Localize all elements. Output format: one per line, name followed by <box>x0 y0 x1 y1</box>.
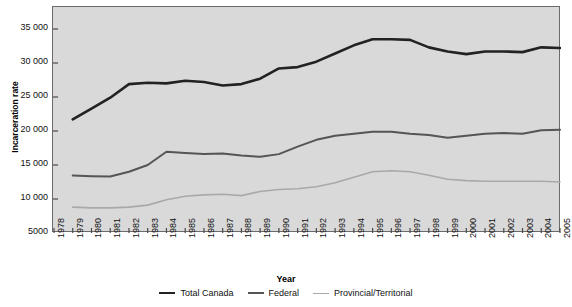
x-tick-label: 1993 <box>338 218 347 238</box>
x-tick-label: 1986 <box>207 218 216 238</box>
x-tick-label: 1980 <box>94 218 103 238</box>
x-tick-label: 2001 <box>488 218 497 238</box>
series-line <box>73 39 560 119</box>
x-tick-label: 2005 <box>563 218 572 238</box>
legend-item: Total Canada <box>159 288 233 298</box>
legend-item: Federal <box>248 288 300 298</box>
chart-legend: Total CanadaFederalProvincial/Territoria… <box>0 288 572 298</box>
x-tick-label: 1991 <box>301 218 310 238</box>
y-tick-label: 25 000 <box>4 91 48 100</box>
x-tick-label: 2000 <box>469 218 478 238</box>
legend-label: Federal <box>269 288 300 298</box>
x-tick-label: 1997 <box>413 218 422 238</box>
x-tick-label: 1983 <box>151 218 160 238</box>
x-tick-label: 1999 <box>451 218 460 238</box>
chart-lines <box>53 7 561 233</box>
x-tick-label: 1990 <box>282 218 291 238</box>
x-tick-label: 1992 <box>319 218 328 238</box>
legend-item: Provincial/Territorial <box>313 288 413 298</box>
y-tick-label: 30 000 <box>4 57 48 66</box>
x-tick-label: 1995 <box>376 218 385 238</box>
x-tick-label: 2003 <box>526 218 535 238</box>
x-tick-label: 1994 <box>357 218 366 238</box>
legend-swatch <box>159 292 175 294</box>
legend-label: Total Canada <box>180 288 233 298</box>
x-tick-label: 1978 <box>57 218 66 238</box>
plot-area <box>52 6 560 232</box>
x-tick-label: 1987 <box>226 218 235 238</box>
x-tick-label: 1989 <box>263 218 272 238</box>
x-tick-label: 1979 <box>76 218 85 238</box>
x-tick-label: 2002 <box>507 218 516 238</box>
legend-label: Provincial/Territorial <box>334 288 413 298</box>
x-tick-label: 1998 <box>432 218 441 238</box>
x-tick-label: 1996 <box>394 218 403 238</box>
x-tick-label: 1985 <box>188 218 197 238</box>
y-tick-label: 15 000 <box>4 159 48 168</box>
x-tick-label: 1981 <box>113 218 122 238</box>
y-tick-label: 10 000 <box>4 193 48 202</box>
x-tick-label: 1984 <box>169 218 178 238</box>
legend-swatch <box>248 292 264 294</box>
incarceration-rate-line-chart: Incarceration rate 500010 00015 00020 00… <box>0 0 572 307</box>
legend-swatch <box>313 293 329 294</box>
y-tick-label: 20 000 <box>4 125 48 134</box>
series-line <box>73 130 560 177</box>
series-line <box>73 171 560 208</box>
x-axis-title: Year <box>0 274 572 284</box>
y-axis-tick-labels: 500010 00015 00020 00025 00030 00035 000 <box>0 0 48 240</box>
x-tick-label: 2004 <box>544 218 553 238</box>
y-tick-label: 5000 <box>4 227 48 236</box>
x-tick-label: 1982 <box>132 218 141 238</box>
y-tick-label: 35 000 <box>4 23 48 32</box>
x-tick-label: 1988 <box>244 218 253 238</box>
